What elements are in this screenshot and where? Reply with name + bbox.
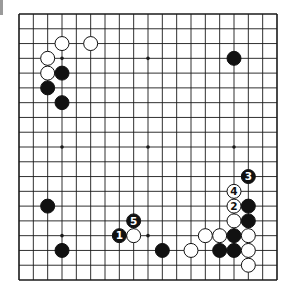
star-point [146, 145, 150, 149]
black-stone [227, 229, 241, 243]
white-stone [127, 229, 141, 243]
star-point [60, 145, 64, 149]
black-stone [213, 243, 227, 257]
black-stone [55, 96, 69, 110]
white-stone [198, 229, 212, 243]
star-point [232, 145, 236, 149]
move-number-label: 4 [230, 185, 237, 197]
white-stone [41, 51, 55, 65]
star-point [146, 57, 150, 61]
black-stone [227, 243, 241, 257]
black-stone [41, 199, 55, 213]
white-stone [241, 243, 255, 257]
white-stone [241, 229, 255, 243]
black-stone [241, 214, 255, 228]
black-stone [55, 243, 69, 257]
black-stone [155, 243, 169, 257]
star-point [146, 234, 150, 238]
white-stone [84, 37, 98, 51]
black-stone [241, 199, 255, 213]
black-stone [227, 51, 241, 65]
move-number-label: 3 [245, 170, 252, 182]
star-point [60, 234, 64, 238]
white-stone [55, 37, 69, 51]
white-stone [184, 243, 198, 257]
white-stone [227, 214, 241, 228]
white-stone [241, 258, 255, 272]
white-stone [41, 66, 55, 80]
move-number-label: 5 [130, 215, 137, 227]
go-board: 12345 [0, 0, 292, 299]
move-number-label: 2 [230, 200, 237, 212]
star-point [60, 57, 64, 61]
black-stone [55, 66, 69, 80]
black-stone [41, 81, 55, 95]
move-number-label: 1 [116, 229, 123, 241]
white-stone [213, 229, 227, 243]
